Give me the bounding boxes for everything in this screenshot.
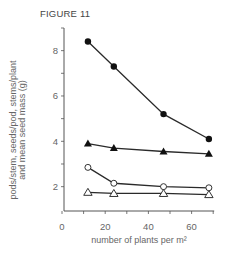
x-tick-label: 60: [186, 221, 197, 232]
y-tick-label: 6: [53, 90, 58, 101]
series-line: [88, 192, 209, 194]
y-tick-label: 4: [53, 136, 58, 147]
line-chart: 24680204060 number of plants per m² pods…: [0, 0, 233, 265]
data-point-open-circle: [111, 180, 117, 186]
x-tick-label: 20: [100, 221, 111, 232]
series-circle-filled: [85, 38, 212, 142]
series-circle-open: [85, 164, 212, 190]
series-triangle-filled: [84, 140, 213, 157]
series-line: [88, 42, 209, 139]
y-axis-label-line2: and mean seed mass (g): [17, 80, 27, 180]
data-point-filled-circle: [160, 111, 166, 117]
data-point-open-circle: [85, 164, 91, 170]
series-line: [88, 167, 209, 187]
data-point-filled-circle: [111, 63, 117, 69]
axes: 24680204060: [53, 28, 214, 232]
x-axis-label: number of plants per m²: [91, 235, 187, 245]
data-point-filled-circle: [85, 38, 91, 44]
data-point-filled-circle: [206, 136, 212, 142]
data-point-filled-triangle: [84, 140, 92, 147]
x-tick-label: 0: [59, 221, 64, 232]
x-tick-label: 40: [143, 221, 154, 232]
y-tick-label: 8: [53, 45, 58, 56]
y-tick-label: 2: [53, 181, 58, 192]
series-group: [84, 38, 213, 197]
series-triangle-open: [84, 188, 213, 197]
series-line: [88, 144, 209, 154]
